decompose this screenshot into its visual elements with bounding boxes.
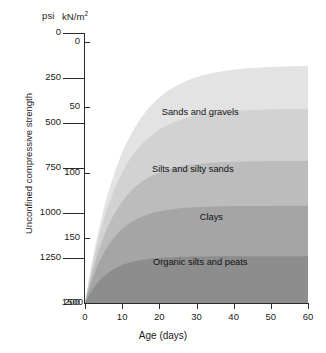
kn-unit-exponent: 2 — [85, 10, 89, 17]
x-tick-label-50: 50 — [251, 311, 291, 322]
kn-unit-header: kN/m2 — [62, 10, 88, 22]
psi-tick-mark — [63, 258, 85, 259]
x-tick-label-30: 30 — [177, 311, 217, 322]
x-tick-mark — [197, 304, 198, 309]
psi-tick-mark — [63, 78, 85, 79]
x-tick-label-10: 10 — [102, 311, 142, 322]
x-tick-mark — [122, 304, 123, 309]
kn-tick-label-0: 200 — [40, 296, 80, 307]
kn-tick-mark — [85, 42, 90, 43]
kn-tick-label-150: 50 — [40, 100, 80, 111]
band-label-3: Organic silts and peats — [153, 257, 248, 267]
x-tick-mark — [159, 304, 160, 309]
kn-tick-mark — [85, 173, 90, 174]
band-label-2: Clays — [200, 212, 223, 222]
x-tick-label-40: 40 — [214, 311, 254, 322]
x-tick-mark — [271, 304, 272, 309]
x-tick-mark — [234, 304, 235, 309]
psi-unit-header: psi — [42, 10, 54, 21]
psi-tick-mark — [63, 213, 85, 214]
kn-tick-label-100: 100 — [40, 166, 80, 177]
x-tick-mark — [85, 304, 86, 309]
x-tick-label-20: 20 — [139, 311, 179, 322]
kn-tick-label-50: 150 — [40, 231, 80, 242]
psi-tick-mark — [63, 123, 85, 124]
psi-tick-mark — [63, 33, 85, 34]
x-tick-mark — [308, 304, 309, 309]
psi-tick-label-1250: 250 — [10, 71, 61, 82]
psi-tick-label-500: 1000 — [10, 206, 61, 217]
x-axis-title: Age (days) — [0, 330, 326, 341]
kn-tick-label-200: 0 — [40, 35, 80, 46]
kn-tick-mark — [85, 107, 90, 108]
psi-tick-label-1000: 500 — [10, 116, 61, 127]
psi-tick-label-250: 1250 — [10, 251, 61, 262]
x-tick-label-0: 0 — [65, 311, 105, 322]
band-label-0: Sands and gravels — [162, 107, 239, 117]
x-tick-label-60: 60 — [288, 311, 326, 322]
chart-figure: psi kN/m2 Unconfined compressive strengt… — [0, 0, 326, 353]
kn-tick-mark — [85, 238, 90, 239]
band-label-1: Silts and silty sands — [152, 164, 234, 174]
kn-unit-text: kN/m — [62, 11, 85, 22]
